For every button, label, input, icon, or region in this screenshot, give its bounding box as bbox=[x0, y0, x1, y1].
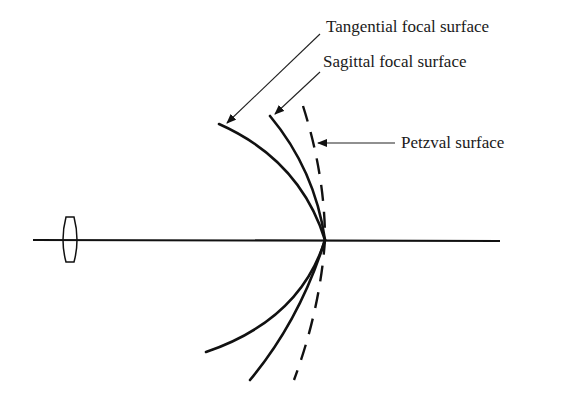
tangential-label: Tangential focal surface bbox=[326, 17, 489, 36]
tangential-leader-arrow bbox=[227, 34, 320, 123]
diagram-canvas: Tangential focal surface Sagittal focal … bbox=[0, 0, 571, 401]
tangential-focal-surface bbox=[206, 124, 325, 352]
focal-surfaces-diagram: Tangential focal surface Sagittal focal … bbox=[0, 0, 571, 401]
optical-axis bbox=[33, 240, 500, 241]
petzval-label: Petzval surface bbox=[401, 133, 504, 152]
sagittal-leader-arrow bbox=[275, 72, 320, 114]
sagittal-label: Sagittal focal surface bbox=[323, 52, 467, 71]
sagittal-focal-surface bbox=[250, 116, 325, 380]
petzval-surface bbox=[294, 106, 325, 380]
